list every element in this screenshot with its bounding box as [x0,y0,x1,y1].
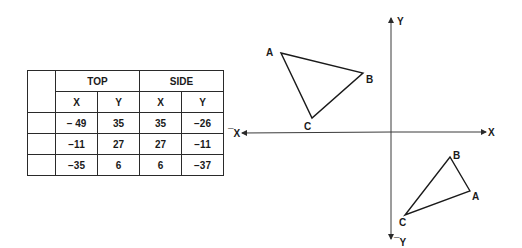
neg-y-axis-label: ¯Y [393,237,407,248]
coordinate-plane: Y ¯Y X ¯X A B C A B C [0,0,522,248]
vertex-label-a: A [266,47,273,58]
vertex-label-c: C [304,121,311,132]
y-axis-label: Y [397,16,404,27]
vertex-label-a: A [472,191,479,202]
triangle-top-left [281,53,363,118]
x-axis-label: X [488,127,495,138]
vertex-label-b: B [366,74,373,85]
vertex-label-b: B [453,150,460,161]
vertex-label-c: C [399,217,406,228]
x-axis-negative [242,132,392,133]
neg-x-axis-label: ¯X [227,128,241,139]
triangle-bottom-right [405,157,470,215]
